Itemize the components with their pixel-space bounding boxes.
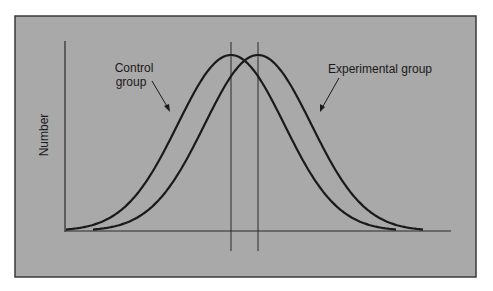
y-axis-label: Number [37, 114, 51, 157]
control-label-line2: group [116, 75, 147, 89]
experimental-label: Experimental group [328, 62, 432, 76]
chart-figure: Number Control group Experimental group [0, 0, 493, 291]
chart-panel [15, 16, 476, 277]
control-label-line1: Control [115, 61, 154, 75]
